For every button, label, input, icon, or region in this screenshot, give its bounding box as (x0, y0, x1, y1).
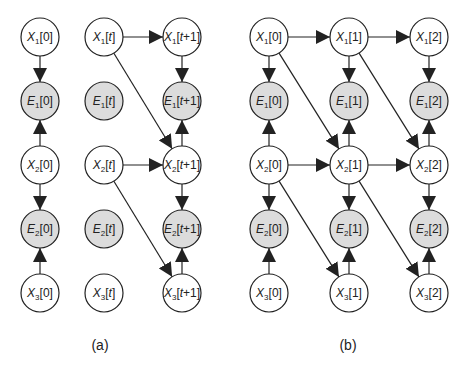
node-a_E2_t1: E2[t+1] (163, 210, 201, 248)
node-a_X2_t1: X2[t+1] (163, 146, 201, 184)
node-label: E2[t+1] (164, 222, 200, 238)
node-a_E2_0: E2[0] (21, 210, 59, 248)
node-label: E1[2] (416, 94, 442, 110)
node-label: E2[0] (27, 222, 53, 238)
node-label: X1[t+1] (163, 30, 200, 46)
node-label: X2[0] (255, 158, 282, 174)
node-b_X2_0: X2[0] (250, 146, 288, 184)
node-a_X1_t1: X1[t+1] (163, 18, 201, 56)
node-a_X1_t: X1[t] (85, 18, 123, 56)
node-label: X3[2] (415, 286, 442, 302)
node-b_E1_2: E1[2] (410, 82, 448, 120)
node-b_X1_1: X1[1] (330, 18, 368, 56)
node-label: X1[1] (335, 30, 362, 46)
node-b_E2_2: E2[2] (410, 210, 448, 248)
dbn-diagram: X1[0]E1[0]X2[0]E2[0]X3[0]X1[t]E1[t]X2[t]… (0, 0, 462, 369)
node-label: X2[t+1] (163, 158, 200, 174)
node-label: X1[0] (26, 30, 53, 46)
node-b_E2_0: E2[0] (250, 210, 288, 248)
node-b_X2_2: X2[2] (410, 146, 448, 184)
node-a_E2_t: E2[t] (85, 210, 123, 248)
node-a_E1_0: E1[0] (21, 82, 59, 120)
node-label: X2[0] (26, 158, 53, 174)
node-label: E2[0] (256, 222, 282, 238)
node-label: E2[1] (336, 222, 362, 238)
node-a_E1_t: E1[t] (85, 82, 123, 120)
node-a_X2_t: X2[t] (85, 146, 123, 184)
node-b_E2_1: E2[1] (330, 210, 368, 248)
node-a_E1_t1: E1[t+1] (163, 82, 201, 120)
node-b_X1_2: X1[2] (410, 18, 448, 56)
node-label: X3[t+1] (163, 286, 200, 302)
node-label: X1[2] (415, 30, 442, 46)
node-label: E1[1] (336, 94, 362, 110)
node-a_X1_0: X1[0] (21, 18, 59, 56)
node-b_X3_0: X3[0] (250, 274, 288, 312)
node-label: X1[0] (255, 30, 282, 46)
node-b_X1_0: X1[0] (250, 18, 288, 56)
node-a_X3_t: X3[t] (85, 274, 123, 312)
node-b_X2_1: X2[1] (330, 146, 368, 184)
node-label: X2[2] (415, 158, 442, 174)
panel-caption: (b) (339, 337, 356, 353)
node-label: X3[1] (335, 286, 362, 302)
node-a_X2_0: X2[0] (21, 146, 59, 184)
node-b_X3_2: X3[2] (410, 274, 448, 312)
node-label: E2[2] (416, 222, 442, 238)
node-label: X2[1] (335, 158, 362, 174)
node-a_X3_t1: X3[t+1] (163, 274, 201, 312)
node-b_E1_0: E1[0] (250, 82, 288, 120)
panel-caption: (a) (91, 337, 108, 353)
node-a_X3_0: X3[0] (21, 274, 59, 312)
captions-layer: (a)(b) (91, 337, 356, 353)
node-b_X3_1: X3[1] (330, 274, 368, 312)
node-b_E1_1: E1[1] (330, 82, 368, 120)
node-label: E1[0] (256, 94, 282, 110)
node-label: X3[0] (26, 286, 53, 302)
node-label: E1[0] (27, 94, 53, 110)
node-label: E1[t+1] (164, 94, 200, 110)
node-label: X3[0] (255, 286, 282, 302)
